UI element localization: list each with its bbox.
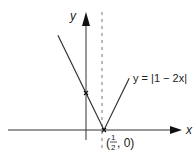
vertex-label: ( 1 2 , 0) <box>106 133 134 152</box>
curve-equation-label: y = |1 − 2x| <box>133 72 187 84</box>
vertex-label-close: , 0) <box>117 136 134 150</box>
graph-figure: x y y = |1 − 2x| ( 1 2 , 0) <box>0 0 194 162</box>
y-axis-label: y <box>69 9 77 23</box>
vertex-label-numerator: 1 <box>111 133 116 142</box>
x-axis-label: x <box>185 123 193 137</box>
vertex-label-denominator: 2 <box>111 143 116 152</box>
abs-value-curve <box>58 35 129 130</box>
y-axis-arrowhead <box>82 12 90 26</box>
vertex-label-open: ( <box>106 136 110 150</box>
x-axis-arrowhead <box>170 126 182 134</box>
